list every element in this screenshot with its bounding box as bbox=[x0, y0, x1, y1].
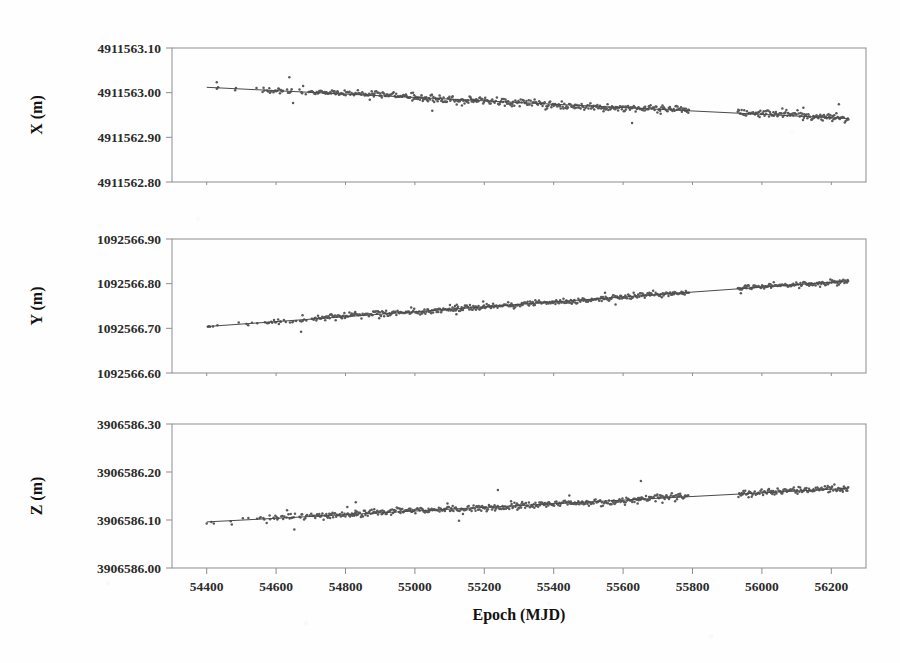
xtick-label: 54800 bbox=[329, 579, 363, 594]
xtick-label: 54400 bbox=[190, 579, 224, 594]
trend-line-x bbox=[207, 87, 849, 118]
ytick-label: 3906586.00 bbox=[97, 561, 161, 576]
xtick-label: 55800 bbox=[676, 579, 710, 594]
axis-title-y: Y (m) bbox=[28, 287, 46, 326]
panel-y: 1092566.601092566.701092566.801092566.90… bbox=[28, 232, 866, 381]
ytick-label: 4911563.10 bbox=[98, 41, 162, 56]
ytick-label: 4911563.00 bbox=[98, 85, 162, 100]
plot-canvas: 4911562.804911562.904911563.004911563.10… bbox=[0, 0, 900, 663]
panel-x: 4911562.804911562.904911563.004911563.10… bbox=[28, 41, 866, 190]
xtick-label: 56200 bbox=[814, 579, 848, 594]
ytick-label: 4911562.90 bbox=[98, 130, 162, 145]
xtick-label: 55000 bbox=[398, 579, 432, 594]
trend-line-y bbox=[207, 281, 849, 327]
xtick-label: 54600 bbox=[259, 579, 293, 594]
ytick-label: 4911562.80 bbox=[98, 175, 162, 190]
ytick-label: 1092566.90 bbox=[97, 232, 161, 247]
trend-line-z bbox=[207, 488, 849, 522]
scatter-points-y bbox=[207, 278, 850, 333]
ytick-label: 3906586.30 bbox=[97, 417, 161, 432]
axis-title-z: Z (m) bbox=[28, 477, 46, 516]
xtick-label: 55200 bbox=[467, 579, 501, 594]
ytick-label: 3906586.10 bbox=[97, 513, 161, 528]
panel-z: 3906586.003906586.103906586.203906586.30… bbox=[28, 417, 866, 595]
xtick-label: 55600 bbox=[606, 579, 640, 594]
ytick-label: 1092566.70 bbox=[97, 321, 161, 336]
ytick-label: 1092566.80 bbox=[97, 276, 161, 291]
scatter-points-x bbox=[216, 76, 850, 124]
ytick-label: 1092566.60 bbox=[97, 366, 161, 381]
xtick-label: 55400 bbox=[537, 579, 571, 594]
ytick-label: 3906586.20 bbox=[97, 465, 161, 480]
axis-title-x: X (m) bbox=[28, 95, 46, 135]
x-axis-title: Epoch (MJD) bbox=[473, 606, 566, 624]
xtick-label: 56000 bbox=[745, 579, 779, 594]
coordinate-time-series-figure: 4911562.804911562.904911563.004911563.10… bbox=[0, 0, 900, 663]
plot-frame-z bbox=[172, 424, 866, 568]
